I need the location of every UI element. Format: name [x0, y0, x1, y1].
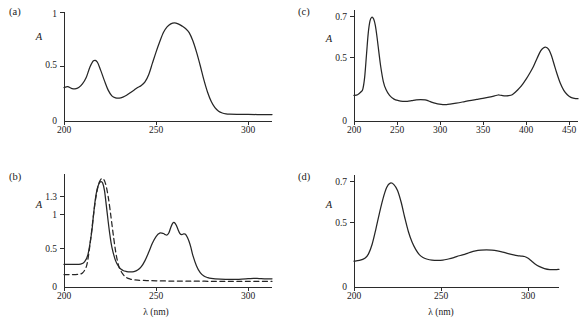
- panel-a-curve: [64, 23, 272, 115]
- panel-d-curve: [354, 183, 559, 270]
- spectra-figure: (a) A 1 0.5 0 200 250 300 (b) A 1.3 1 0.…: [0, 0, 587, 334]
- panel-b-xtick-2: 300: [241, 291, 256, 301]
- panel-b-ytick-2: 1: [52, 210, 57, 220]
- panel-b-plot: (b) A 1.3 1 0.5 0 200 250 300 λ (nm): [0, 160, 293, 334]
- panel-d-xtick-1: 250: [434, 291, 449, 301]
- panel-b-axes: [64, 174, 272, 287]
- panel-c: (c) A 0.7 0.5 0 200 250 300 350 400 450: [293, 0, 587, 167]
- panel-c-label: (c): [298, 6, 310, 18]
- panel-a-plot: (a) A 1 0.5 0 200 250 300: [0, 0, 293, 167]
- panel-d-plot: (d) A 0.7 0.5 0 200 250 300 λ (nm): [293, 160, 587, 334]
- panel-b-ylabel: A: [35, 199, 43, 210]
- panel-d: (d) A 0.7 0.5 0 200 250 300 λ (nm): [293, 160, 587, 334]
- panel-c-curve: [354, 17, 578, 105]
- panel-c-ytick-2: 0.7: [335, 12, 347, 22]
- panel-b-label: (b): [9, 171, 22, 183]
- panel-c-xtick-4: 400: [519, 125, 534, 135]
- panel-a-ytick-1: 0.5: [45, 60, 57, 70]
- panel-b-xlabel: λ (nm): [143, 307, 168, 318]
- panel-d-xlabel: λ (nm): [428, 307, 453, 318]
- panel-d-label: (d): [298, 171, 311, 183]
- panel-d-ytick-2: 0.7: [335, 177, 347, 187]
- panel-a-ylabel: A: [35, 31, 43, 42]
- panel-b-curve-solid: [64, 181, 272, 279]
- panel-d-ytick-1: 0.5: [335, 218, 347, 228]
- panel-a-xtick-2: 300: [241, 125, 256, 135]
- panel-b: (b) A 1.3 1 0.5 0 200 250 300 λ (nm): [0, 160, 293, 334]
- panel-c-xtick-0: 200: [347, 125, 362, 135]
- panel-a-xtick-1: 250: [149, 125, 164, 135]
- panel-b-ytick-1: 0.5: [45, 244, 57, 254]
- panel-c-ylabel: A: [325, 33, 333, 44]
- panel-c-plot: (c) A 0.7 0.5 0 200 250 300 350 400 450: [293, 0, 587, 167]
- panel-d-xtick-0: 200: [347, 291, 362, 301]
- panel-a-ytick-2: 1: [52, 9, 57, 19]
- panel-b-ytick-3: 1.3: [45, 192, 57, 202]
- panel-a-axes: [64, 12, 272, 121]
- panel-a-label: (a): [9, 6, 21, 18]
- panel-c-ytick-1: 0.5: [335, 53, 347, 63]
- panel-d-xtick-2: 300: [521, 291, 536, 301]
- panel-c-axes: [354, 10, 578, 121]
- panel-c-xtick-1: 250: [390, 125, 405, 135]
- panel-b-curve-dashed: [64, 178, 272, 281]
- panel-c-xtick-5: 450: [562, 125, 577, 135]
- panel-d-ylabel: A: [325, 199, 333, 210]
- panel-b-xtick-1: 250: [149, 291, 164, 301]
- panel-a-xtick-0: 200: [57, 125, 72, 135]
- panel-c-xtick-2: 300: [433, 125, 448, 135]
- panel-c-xtick-3: 350: [476, 125, 491, 135]
- panel-b-xtick-0: 200: [57, 291, 72, 301]
- panel-a: (a) A 1 0.5 0 200 250 300: [0, 0, 293, 167]
